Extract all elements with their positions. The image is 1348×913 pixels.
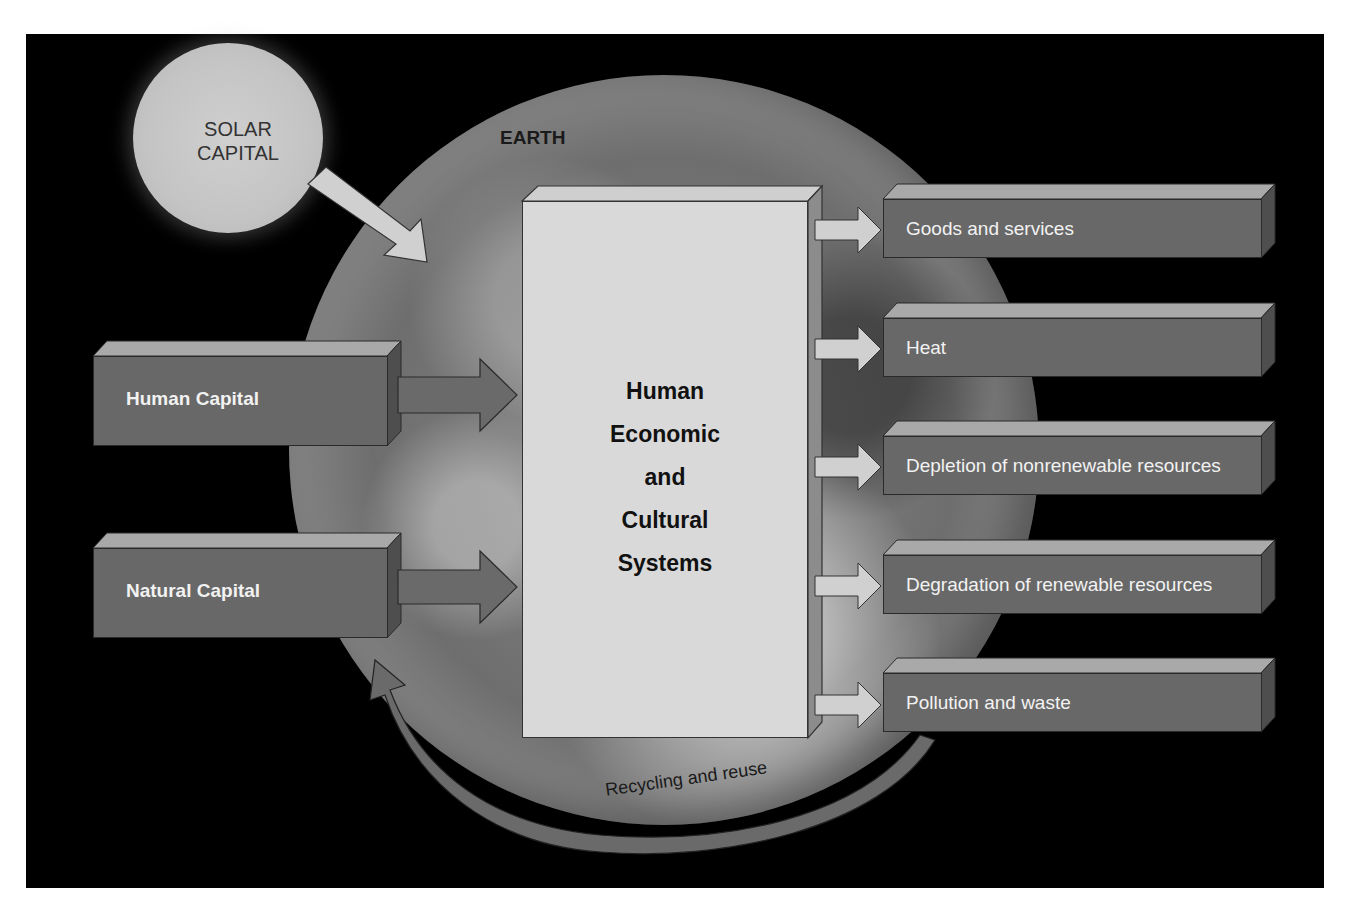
output-label: Heat [906,337,946,359]
natural-capital-arrow-icon [398,551,517,623]
center-line: and [522,456,808,499]
center-line: Cultural [522,499,808,542]
output-label: Goods and services [906,218,1074,240]
center-line: Human [522,370,808,413]
human-capital-top [93,341,401,356]
center-box-text: Human Economic and Cultural Systems [522,370,808,585]
center-line: Systems [522,542,808,585]
center-box-top [522,186,822,201]
output-arrow-icon [815,207,881,728]
output-label: Pollution and waste [906,692,1071,714]
natural-capital-label: Natural Capital [126,580,260,602]
output-label: Depletion of nonrenewable resources [906,455,1221,477]
human-capital-label: Human Capital [126,388,259,410]
solar-arrow-icon [308,167,427,262]
natural-capital-top [93,533,401,548]
center-line: Economic [522,413,808,456]
output-label: Degradation of renewable resources [906,574,1212,596]
human-capital-arrow-icon [398,359,517,431]
